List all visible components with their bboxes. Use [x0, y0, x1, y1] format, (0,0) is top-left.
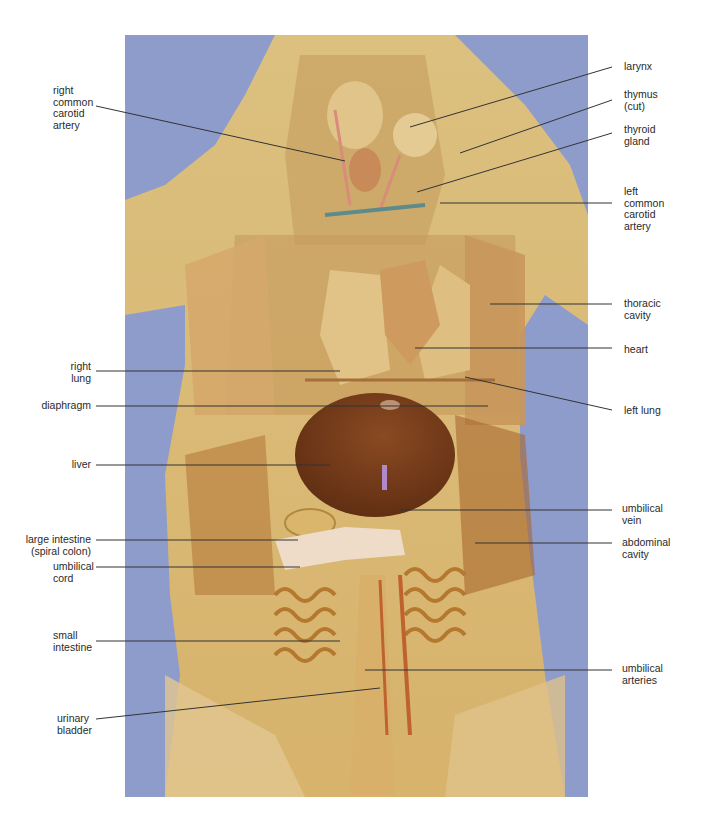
label-umbilical-vein: umbilical vein — [622, 503, 663, 526]
label-right-common-carotid-artery: right common carotid artery — [53, 85, 93, 131]
dissection-photo — [125, 35, 588, 797]
label-urinary-bladder: urinary bladder — [57, 713, 92, 736]
label-umbilical-arteries: umbilical arteries — [622, 663, 663, 686]
thymus-shape — [393, 113, 437, 157]
liver-shape — [295, 393, 455, 517]
label-umbilical-cord: umbilical cord — [53, 561, 94, 584]
fetal-pig-dissection-illustration — [125, 35, 588, 797]
label-abdominal-cavity: abdominal cavity — [622, 537, 670, 560]
umbilical-vein-shape — [382, 465, 387, 490]
label-left-lung: left lung — [624, 405, 661, 417]
label-thyroid-gland: thyroid gland — [624, 124, 656, 147]
label-liver: liver — [72, 459, 91, 471]
label-diaphragm: diaphragm — [41, 400, 91, 412]
label-left-common-carotid-artery: left common carotid artery — [624, 186, 664, 232]
label-thoracic-cavity: thoracic cavity — [624, 298, 661, 321]
label-large-intestine: large intestine (spiral colon) — [26, 534, 91, 557]
label-larynx: larynx — [624, 61, 652, 73]
label-right-lung: right lung — [71, 361, 91, 384]
thyroid-shape — [349, 148, 381, 192]
label-thymus: thymus (cut) — [624, 89, 658, 112]
label-heart: heart — [624, 344, 648, 356]
label-small-intestine: small intestine — [53, 630, 92, 653]
